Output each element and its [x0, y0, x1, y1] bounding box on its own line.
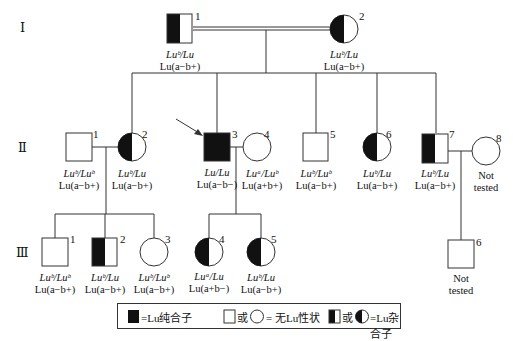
unaffected-circle-icon	[251, 310, 264, 323]
label-II-3: Lu/LuLu(a−b−)	[197, 167, 237, 191]
individual-II-1-symbol	[66, 133, 92, 161]
individual-number: 6	[476, 237, 482, 248]
label-I-2: Luᵇ/LuLu(a−b+)	[324, 49, 364, 73]
individual-number: 2	[120, 234, 126, 245]
label-II-1: Luᵇ/LuᵇLu(a−b+)	[59, 168, 99, 192]
individual-I-2-symbol	[330, 15, 358, 43]
individual-number: 5	[330, 129, 336, 140]
label-II-2: Luᵇ/LuLu(a−b+)	[112, 168, 152, 192]
legend-homozygous-text: =Lu纯合子	[141, 309, 192, 325]
label-II-8: Nottested	[474, 170, 499, 194]
label-II-4: Luᵃ/LuᵇLu(a+b+)	[242, 168, 282, 192]
individual-II-3-symbol	[204, 133, 230, 161]
individual-III-6-symbol	[448, 240, 474, 268]
label-III-6: Nottested	[449, 273, 474, 297]
individual-number: 2	[142, 129, 148, 140]
legend-or-text: 或	[237, 309, 248, 325]
individual-number: 3	[232, 129, 238, 140]
individual-number: 7	[449, 129, 455, 140]
label-II-7: Luᵇ/LuLu(a−b+)	[415, 168, 455, 192]
legend-heterozygous-text: =Lu杂合子	[370, 309, 400, 341]
individual-number: 3	[165, 234, 171, 245]
label-III-5: Luᵇ/LuLu(a−b+)	[241, 272, 281, 296]
unaffected-square-icon	[224, 310, 235, 323]
proband-arrow-icon	[176, 119, 203, 136]
legend: =Lu纯合子 或 = 无Lu性状 或 =Lu杂合子	[117, 303, 401, 329]
homozygous-square-icon	[128, 310, 139, 323]
individual-number: 4	[264, 129, 270, 140]
individual-III-2-symbol	[92, 238, 117, 266]
individual-II-7-symbol	[422, 134, 448, 163]
label-II-6: Luᵇ/LuLu(a−b+)	[357, 168, 397, 192]
label-III-4: Luᵃ/LuLu(a+b−)	[189, 271, 229, 295]
generation-label-II: Ⅱ	[18, 140, 27, 156]
individual-number: 1	[195, 11, 201, 22]
individual-number: 2	[359, 11, 365, 22]
individual-III-3-symbol	[140, 238, 168, 266]
generation-label-I: Ⅰ	[20, 20, 25, 36]
heterozygous-square-icon	[329, 310, 340, 323]
individual-II-5-symbol	[303, 133, 328, 161]
label-III-3: Luᵇ/LuᵇLu(a−b+)	[134, 272, 174, 296]
individual-number: 1	[70, 234, 76, 245]
heterozygous-circle-icon	[356, 310, 369, 323]
individual-III-1-symbol	[42, 238, 68, 266]
individual-number: 8	[496, 133, 502, 144]
label-III-1: Luᵇ/LuᵇLu(a−b+)	[35, 272, 75, 296]
individual-number: 1	[93, 129, 99, 140]
individual-number: 4	[219, 234, 225, 245]
legend-unaffected-text: = 无Lu性状	[266, 309, 320, 325]
individual-number: 5	[271, 234, 277, 245]
label-I-1: Luᵇ/LuLu(a−b+)	[160, 49, 200, 73]
individual-I-1-symbol	[167, 14, 192, 43]
label-III-2: Luᵇ/LuLu(a−b+)	[85, 272, 125, 296]
label-II-5: Luᵇ/LuᵇLu(a−b+)	[296, 168, 336, 192]
generation-label-III: Ⅲ	[16, 245, 29, 261]
individual-number: 6	[386, 129, 392, 140]
legend-or-text: 或	[342, 309, 353, 325]
